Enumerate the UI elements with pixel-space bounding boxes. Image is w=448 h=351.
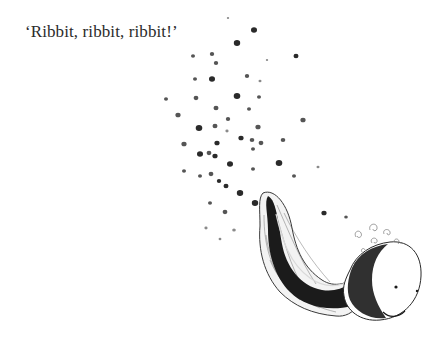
bubble-dot — [234, 93, 241, 99]
tadpole-illustration — [0, 0, 448, 351]
bubble-dot — [210, 52, 214, 56]
bubble-dot — [227, 161, 233, 166]
bubble-dot — [238, 136, 243, 141]
bubble-dot — [237, 190, 243, 196]
bubble-dot — [281, 138, 286, 142]
bubble-dot — [209, 76, 215, 81]
bubble-dot — [194, 96, 199, 100]
bubble-dot — [259, 80, 262, 83]
bubble-dot — [175, 113, 180, 118]
bubble-dot — [234, 40, 240, 46]
bubble-dot — [214, 61, 218, 65]
bubble-dot — [225, 130, 228, 133]
bubble-dot — [232, 228, 236, 231]
bubble-dot — [164, 97, 168, 101]
bubble-dot — [193, 77, 197, 81]
bubble-dot — [223, 210, 228, 214]
bubble-dot — [250, 138, 255, 142]
bubble-dot — [257, 95, 261, 99]
bubble-dot — [191, 54, 195, 58]
bubble-dot — [245, 74, 249, 78]
bubble-dot — [217, 179, 221, 183]
bubble-dot — [207, 151, 212, 155]
bubble-dot — [247, 107, 251, 111]
bubble-dot — [208, 201, 212, 205]
bubble-dot — [212, 154, 217, 159]
bubble-dot — [251, 167, 255, 171]
bubble-dot — [213, 124, 218, 129]
bubble-dot — [251, 27, 257, 32]
bubble-dot — [224, 184, 229, 189]
bubble-dot — [252, 200, 258, 206]
bubble-dot — [300, 118, 305, 123]
bubble-dot — [214, 141, 219, 146]
bubble-dot — [266, 59, 268, 61]
bubble-dot — [219, 238, 222, 241]
bubble-dot — [292, 174, 296, 178]
bubble-dot — [317, 166, 320, 169]
bubble-dot — [226, 117, 230, 121]
bubble-dot — [204, 227, 207, 230]
bubble-dots — [164, 17, 348, 240]
bubble-dot — [197, 151, 203, 156]
tadpole-icon — [260, 192, 421, 320]
bubble-dot — [198, 174, 202, 178]
bubble-dot — [321, 211, 326, 216]
bubble-dot — [227, 17, 229, 19]
bubble-dot — [196, 125, 203, 131]
bubble-dot — [182, 169, 186, 173]
bubble-dot — [259, 141, 264, 145]
bubble-dot — [209, 172, 214, 176]
bubble-dot — [255, 125, 260, 130]
bubble-dot — [276, 160, 283, 166]
bubble-dot — [181, 142, 186, 147]
bubble-dot — [214, 106, 219, 111]
bubble-dot — [294, 54, 299, 59]
bubble-dot — [251, 147, 255, 151]
bubble-dot — [344, 215, 348, 218]
